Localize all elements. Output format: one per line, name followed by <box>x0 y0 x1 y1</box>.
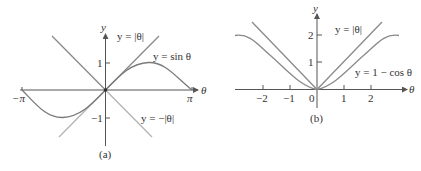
label-neg-abs-a: y = −|θ| <box>141 112 174 124</box>
tick-label-1-a: 1 <box>97 57 103 69</box>
tick-label-y1-b: 1 <box>308 56 314 68</box>
label-abs-a: y = |θ| <box>117 30 144 42</box>
x-axis-label-b: θ <box>409 83 415 95</box>
chart-b: y θ 2 1 −2 −1 0 1 2 y = |θ| y = 1 − cos … <box>235 2 415 125</box>
x-axis-label-a: θ <box>201 84 207 96</box>
label-sin-a: y = sin θ <box>153 50 191 62</box>
tick-label-x2-b: 2 <box>368 92 374 104</box>
tick-label-y2-b: 2 <box>308 29 314 41</box>
figure: y θ 1 −1 −π π y = |θ| y = sin θ y = −|θ|… <box>0 0 421 171</box>
tick-label-x0-b: 0 <box>309 92 315 104</box>
tick-label-x1-b: 1 <box>341 92 347 104</box>
label-abs-b: y = |θ| <box>335 23 362 35</box>
y-axis-label-b: y <box>312 2 318 14</box>
tick-label-pi-a: π <box>187 92 193 104</box>
y-axis-label-a: y <box>100 21 106 33</box>
tick-label-xneg1-b: −1 <box>283 92 295 104</box>
caption-b: (b) <box>310 112 323 125</box>
tick-label-negpi-a: −π <box>12 92 25 104</box>
chart-a: y θ 1 −1 −π π y = |θ| y = sin θ y = −|θ|… <box>12 21 207 161</box>
origin-dot-a <box>104 88 108 92</box>
tick-label-neg1-a: −1 <box>91 112 103 124</box>
label-cos-b: y = 1 − cos θ <box>355 66 412 78</box>
tick-label-xneg2-b: −2 <box>256 92 268 104</box>
caption-a: (a) <box>99 148 112 161</box>
